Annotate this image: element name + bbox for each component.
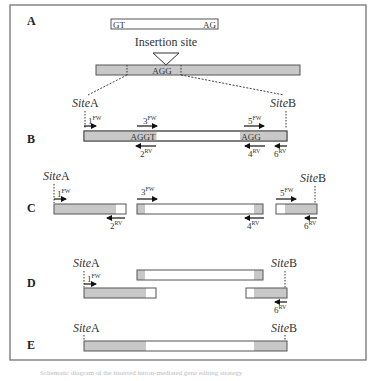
panel-label-d: D	[27, 276, 36, 290]
site-b-label-e: SiteB	[271, 321, 297, 335]
intron-ag-label: AG	[203, 20, 216, 30]
seq-aggt-label: AGGT	[131, 132, 156, 142]
overlap-fragment-left	[84, 288, 156, 298]
insertion-construct-bar: AGGT AGG	[84, 131, 287, 142]
intron-gt-label: GT	[113, 20, 125, 30]
site-b-label-b: SiteB	[270, 96, 296, 110]
insertion-site-label: Insertion site	[135, 35, 197, 49]
panel-label-c: C	[27, 201, 36, 215]
final-edited-construct	[84, 341, 287, 351]
seq-agg-label: AGG	[241, 132, 261, 142]
overlap-fragment-middle	[137, 270, 263, 280]
target-gene-bar: AGG	[96, 65, 300, 76]
intron-insertion-diagram: A GT AG Insertion site AGG SiteA SiteB B…	[0, 0, 374, 381]
figure-caption: Schematic diagram of the inserted intron…	[40, 369, 243, 377]
pcr-fragment-1	[54, 204, 126, 214]
pcr-fragment-2	[137, 204, 263, 214]
intron-box: GT AG	[111, 19, 218, 30]
site-a-label-c: SiteA	[43, 169, 70, 183]
overlap-fragment-right	[246, 288, 287, 298]
site-a-label-b: SiteA	[72, 96, 99, 110]
target-agg-label: AGG	[152, 66, 172, 76]
pcr-fragment-3	[276, 204, 317, 214]
panel-label-b: B	[27, 132, 35, 146]
site-a-label-e: SiteA	[73, 321, 100, 335]
site-b-label-d: SiteB	[271, 256, 297, 270]
site-b-label-c: SiteB	[300, 171, 326, 185]
site-a-label-d: SiteA	[73, 256, 100, 270]
panel-label-e: E	[27, 338, 35, 352]
panel-label-a: A	[27, 14, 36, 28]
